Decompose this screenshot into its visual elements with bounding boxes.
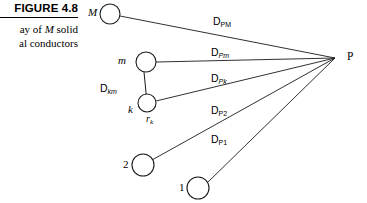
- conductor-circle-2: [132, 154, 154, 176]
- distance-sub-D_P2: P2: [219, 110, 227, 117]
- distance-sub-D_Pk: Pk: [219, 78, 227, 85]
- ray-line-D_Pm: [156, 58, 335, 62]
- distance-sub-D_PM: PM: [221, 21, 231, 28]
- distance-sub-D_km: km: [108, 88, 117, 95]
- conductor-label-k: k: [128, 103, 133, 115]
- conductor-array-diagram: [0, 0, 367, 203]
- distance-base-D_PM: D: [213, 15, 221, 27]
- radius-sub-r_k: k: [150, 118, 153, 126]
- conductor-label-1: 1: [179, 181, 185, 193]
- distance-base-D_P2: D: [211, 104, 219, 116]
- distance-sub-D_Pm: Pm: [219, 52, 229, 59]
- distance-base-D_P1: D: [211, 133, 219, 145]
- distance-sub-D_P1: P1: [219, 139, 227, 146]
- distance-label-D_Pk: DPk: [211, 72, 227, 84]
- distance-base-D_Pk: D: [211, 72, 219, 84]
- distance-label-D_P2: DP2: [211, 104, 227, 116]
- conductor-circle-1: [187, 177, 209, 199]
- distance-base-D_km: D: [100, 82, 108, 94]
- ray-line-D_Pk: [156, 58, 335, 101]
- radius-label-r_k: rk: [146, 113, 153, 124]
- observation-point-label-P: P: [347, 50, 353, 62]
- distance-base-D_Pm: D: [211, 46, 219, 58]
- conductor-circle-k: [138, 94, 156, 112]
- ray-line-D_P2: [152, 58, 335, 160]
- conductor-circle-m: [136, 52, 156, 72]
- distance-label-D_P1: DP1: [211, 133, 227, 145]
- conductor-circle-group: [100, 4, 209, 199]
- figure-4-8-root: FIGURE 4.8 ay of M solid al conductors: [0, 0, 367, 203]
- conductor-label-2: 2: [123, 158, 129, 170]
- conductor-circle-M: [100, 4, 120, 24]
- distance-label-D_PM: DPM: [213, 15, 231, 27]
- conductor-label-M: M: [88, 6, 97, 18]
- conductor-label-m: m: [118, 54, 126, 66]
- distance-label-D_km: Dkm: [100, 82, 117, 94]
- distance-label-D_Pm: DPm: [211, 46, 229, 58]
